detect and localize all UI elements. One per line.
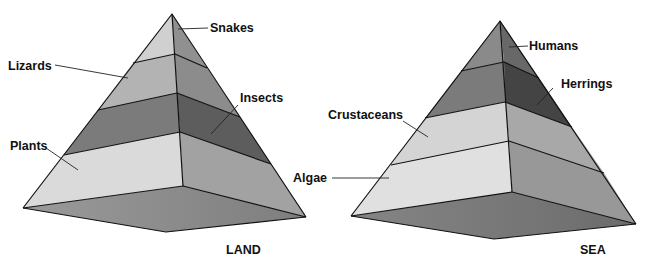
- leader-snakes: [178, 28, 208, 29]
- label-insects: Insects: [240, 91, 283, 105]
- label-algae: Algae: [293, 171, 327, 185]
- caption-land: LAND: [226, 243, 261, 257]
- food-pyramids-diagram: Snakes Lizards Insects Plants LAND Human: [0, 0, 645, 258]
- land-pyramid: Snakes Lizards Insects Plants LAND: [8, 14, 306, 257]
- label-snakes: Snakes: [210, 21, 254, 35]
- label-humans: Humans: [529, 39, 578, 53]
- label-crustaceans: Crustaceans: [328, 108, 403, 122]
- caption-sea: SEA: [580, 243, 606, 257]
- label-lizards: Lizards: [8, 59, 52, 73]
- label-herrings: Herrings: [561, 77, 612, 91]
- leader-lizards: [55, 65, 128, 78]
- label-plants: Plants: [10, 139, 48, 153]
- sea-pyramid: Humans Herrings Crustaceans Algae SEA: [293, 21, 636, 257]
